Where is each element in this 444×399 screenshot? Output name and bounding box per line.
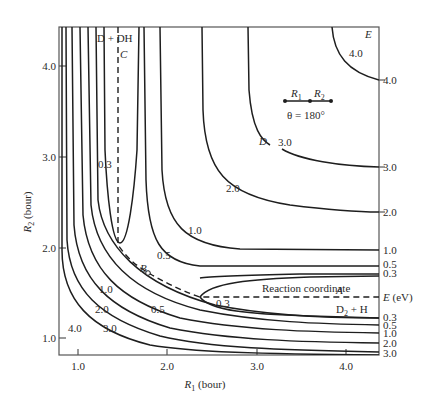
inset-r1-label: R1 xyxy=(290,87,302,102)
atom-marker xyxy=(329,99,333,103)
inset-r2-label: R2 xyxy=(313,87,325,102)
inline-label-0.3: 0.3 xyxy=(216,297,230,309)
x-axis-ticks: 1.0 2.0 3.0 4.0 xyxy=(71,349,353,372)
inline-label-0.5: 0.5 xyxy=(157,249,171,261)
right-label: 2.0 xyxy=(383,206,397,218)
atom-marker xyxy=(308,99,312,103)
potential-energy-contour-chart: 1.0 2.0 3.0 4.0 4.0 3.0 2.0 1.0 R1 (bour… xyxy=(0,0,444,399)
point-d-label: D xyxy=(258,135,267,147)
right-label: 3.0 xyxy=(383,347,397,359)
right-label: 4.0 xyxy=(383,74,397,86)
inline-label-3.0: 3.0 xyxy=(278,136,292,148)
energy-axis-label: E (eV) xyxy=(382,291,413,304)
right-label: 0.3 xyxy=(383,267,397,279)
point-b-label: B xyxy=(140,262,147,274)
reaction-coordinate-text: Reaction coordinate xyxy=(262,282,350,294)
molecule-inset: R1 R2 θ = 180° xyxy=(283,87,333,121)
inline-label-2.0: 2.0 xyxy=(226,182,240,194)
inline-label-2.0: 2.0 xyxy=(95,303,109,315)
contour-0.5-exit xyxy=(88,27,379,325)
corner-e-label: E xyxy=(364,28,372,40)
x-tick-label: 2.0 xyxy=(160,360,174,372)
atom-marker xyxy=(283,99,287,103)
x-tick-label: 4.0 xyxy=(339,360,353,372)
inset-angle-label: θ = 180° xyxy=(287,109,325,121)
x-axis-title: R1 (bour) xyxy=(184,378,226,393)
inline-label-0.3: 0.3 xyxy=(98,158,112,170)
contour-3.0-plateau xyxy=(248,27,270,145)
inline-label-1.0: 1.0 xyxy=(188,224,202,236)
point-c-label: C xyxy=(120,48,128,60)
x-tick-label: 3.0 xyxy=(250,360,264,372)
y-axis-title: R2 (bour) xyxy=(21,191,36,233)
x-tick-label: 1.0 xyxy=(71,360,85,372)
contour-1.0-plateau xyxy=(160,27,379,250)
y-tick-label: 2.0 xyxy=(42,242,56,254)
right-edge-labels: 4.0 3.0 2.0 1.0 0.5 0.3 E (eV) 0.3 0.5 1… xyxy=(379,74,413,359)
inline-label-0.5: 0.5 xyxy=(151,303,165,315)
region-d2-h: D2 + H xyxy=(336,303,368,318)
corner-4.0-label: 4.0 xyxy=(349,47,363,59)
inline-label-4.0: 4.0 xyxy=(68,322,82,334)
right-label: 1.0 xyxy=(383,244,397,256)
right-label: 3.0 xyxy=(383,161,397,173)
y-tick-label: 3.0 xyxy=(42,151,56,163)
inline-label-3.0: 3.0 xyxy=(103,322,117,334)
contour-3.0-plateau-right xyxy=(282,149,379,167)
y-tick-label: 4.0 xyxy=(42,60,56,72)
y-tick-label: 1.0 xyxy=(42,332,56,344)
region-d-dh: D + DH xyxy=(97,32,133,44)
inline-label-1.0: 1.0 xyxy=(99,283,113,295)
